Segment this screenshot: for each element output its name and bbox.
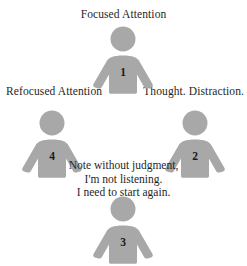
center-note: Note without judgment, I'm not listening… [0,159,247,200]
person-icon [92,196,154,264]
person-icon [92,26,154,94]
person-figure-1: 1 [92,26,154,94]
note-line-2: I'm not listening. [0,173,247,187]
attention-cycle-diagram: Focused Attention Refocused Attention Th… [0,0,247,266]
person-figure-3: 3 [92,196,154,264]
label-focused-attention: Focused Attention [0,8,247,21]
label-refocused-attention: Refocused Attention [6,85,102,98]
label-thought-distraction: Thought. Distraction. [143,85,244,98]
note-line-1: Note without judgment, [0,159,247,173]
